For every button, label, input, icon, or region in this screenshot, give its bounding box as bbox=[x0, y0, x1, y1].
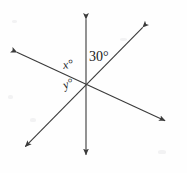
line-group bbox=[17, 19, 165, 155]
angle-diagram-canvas bbox=[0, 0, 187, 173]
angle-diagram-figure: x° y° 30° bbox=[0, 0, 187, 173]
angle-label-30-degrees: 30° bbox=[89, 50, 109, 64]
rising-diagonal-line bbox=[25, 27, 143, 146]
angle-label-x: x° bbox=[62, 57, 74, 70]
